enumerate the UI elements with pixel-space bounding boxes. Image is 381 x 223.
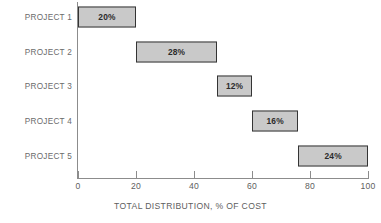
- bar-project-5[interactable]: 24%: [298, 146, 368, 167]
- x-tick-mark-20: [136, 171, 137, 179]
- x-tick-mark-80: [310, 171, 311, 179]
- x-tick-label-0: 0: [58, 181, 98, 191]
- x-tick-mark-40: [194, 171, 195, 179]
- bar-project-3[interactable]: 12%: [217, 76, 252, 97]
- bar-value-project-3: 12%: [218, 82, 251, 90]
- category-label-project-1: PROJECT 1: [0, 13, 72, 22]
- category-label-project-4: PROJECT 4: [0, 117, 72, 126]
- plot-area: 20% 28% 12% 16% 24%: [78, 0, 368, 178]
- x-axis-line: [77, 178, 369, 179]
- x-tick-label-20: 20: [116, 181, 156, 191]
- x-axis-title: TOTAL DISTRIBUTION, % OF COST: [0, 201, 381, 211]
- x-tick-mark-0: [78, 171, 79, 179]
- bar-value-project-1: 20%: [79, 13, 135, 21]
- bar-project-2[interactable]: 28%: [136, 42, 217, 63]
- bar-value-project-4: 16%: [253, 117, 297, 125]
- bar-project-1[interactable]: 20%: [78, 7, 136, 28]
- bar-project-4[interactable]: 16%: [252, 111, 298, 132]
- bar-value-project-5: 24%: [299, 152, 367, 160]
- category-label-project-3: PROJECT 3: [0, 82, 72, 91]
- category-label-project-5: PROJECT 5: [0, 152, 72, 161]
- category-label-project-2: PROJECT 2: [0, 48, 72, 57]
- bar-chart: PROJECT 1 PROJECT 2 PROJECT 3 PROJECT 4 …: [0, 0, 381, 223]
- x-tick-label-40: 40: [174, 181, 214, 191]
- x-tick-label-60: 60: [232, 181, 272, 191]
- x-tick-mark-100: [368, 171, 369, 179]
- x-tick-mark-60: [252, 171, 253, 179]
- x-tick-label-100: 100: [348, 181, 381, 191]
- x-tick-label-80: 80: [290, 181, 330, 191]
- bar-value-project-2: 28%: [137, 48, 216, 56]
